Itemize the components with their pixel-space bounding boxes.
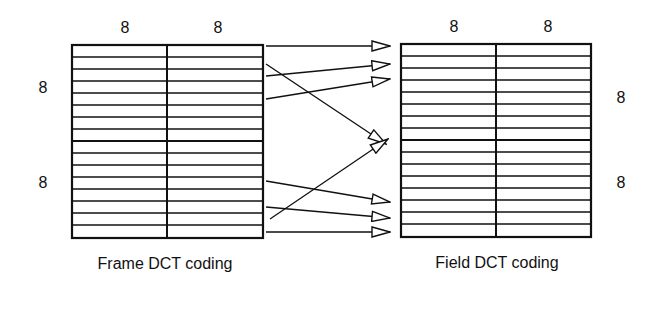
arrow-2 xyxy=(266,64,386,144)
frame-side-label-1: 8 xyxy=(39,79,48,97)
frame-top-label-2: 8 xyxy=(214,19,223,37)
field-top-label-1: 8 xyxy=(450,18,459,36)
arrow-5 xyxy=(266,181,390,202)
field-dct-grid xyxy=(401,44,591,237)
field-top-label-2: 8 xyxy=(544,18,553,36)
field-side-label-2: 8 xyxy=(617,174,626,192)
line-mapping-arrows xyxy=(266,46,390,232)
frame-side-label-2: 8 xyxy=(39,174,48,192)
arrow-7 xyxy=(270,139,388,219)
arrow-3 xyxy=(266,64,390,76)
arrow-4 xyxy=(266,79,390,99)
field-side-label-1: 8 xyxy=(617,89,626,107)
frame-top-label-1: 8 xyxy=(121,19,130,37)
frame-dct-caption: Frame DCT coding xyxy=(98,255,233,273)
field-dct-caption: Field DCT coding xyxy=(435,254,558,272)
frame-dct-grid xyxy=(72,45,263,238)
